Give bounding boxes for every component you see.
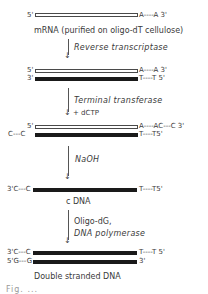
step-reagent-label: Reverse transcriptase [74, 44, 168, 52]
step-reagent-label: + dCTP [73, 110, 99, 117]
mrna-strand [35, 125, 138, 129]
strand-end-label: 3'C---C [7, 249, 31, 256]
strand-end-label: T----T5' [139, 131, 163, 138]
strand-end-label: 5'G---G [7, 258, 32, 265]
cdna-strand [33, 251, 137, 255]
arrow-down-icon: ↓ [64, 237, 71, 245]
second-dna-strand [33, 260, 137, 264]
cdna-strand [33, 188, 137, 192]
step-reagent-label: Oligo-dG, [74, 218, 112, 226]
arrow-down-icon: ↓ [64, 52, 71, 60]
strand-end-label: C---C [8, 131, 25, 138]
cdna-strand [35, 77, 138, 81]
strand-end-label: T----T 5' [139, 75, 165, 82]
poly-a-tail-label: A----A 3' [139, 12, 167, 19]
double-stranded-caption: Double stranded DNA [34, 273, 121, 281]
strand-end-label: T----T 5' [139, 249, 165, 256]
step-reagent-label: Terminal transferase [74, 97, 162, 105]
mrna-strand [35, 13, 138, 17]
arrow-down-icon: ↓ [64, 109, 71, 117]
strand-end-label: 3' [139, 258, 145, 265]
strand-end-label: 5' [27, 123, 33, 130]
mrna-strand [35, 69, 138, 73]
strand-end-label: 3'C---C [7, 186, 31, 193]
step-reagent-label: NaOH [75, 156, 99, 164]
cdna-strand [35, 133, 138, 137]
cdna-caption: c DNA [66, 198, 91, 206]
arrow-down-icon: ↓ [64, 173, 71, 181]
strand-end-label: 5' [27, 12, 33, 19]
strand-end-label: A----AC---C 3' [139, 123, 184, 130]
strand-end-label: A----A 3' [139, 67, 167, 74]
figure-caption-partial: Fig. ... [6, 286, 38, 294]
mrna-caption: mRNA (purified on oligo-dT cellulose) [34, 27, 183, 35]
strand-end-label: 5' [27, 67, 33, 74]
strand-end-label: T----T5' [139, 186, 163, 193]
step-reagent-label: DNA polymerase [74, 230, 145, 238]
strand-end-label: 3' [27, 75, 33, 82]
